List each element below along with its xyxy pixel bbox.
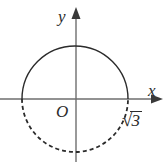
y-axis-arrow-icon bbox=[72, 7, 81, 19]
y-axis-label: y bbox=[58, 8, 66, 25]
upper-semicircle-solid bbox=[22, 46, 128, 99]
x-axis-label: x bbox=[148, 82, 156, 99]
math-figure-coordinate-circle: y x O √3 bbox=[0, 0, 167, 162]
lower-semicircle-dashed bbox=[22, 99, 128, 152]
radical-expression: √3 bbox=[122, 110, 142, 129]
x-intercept-label: √3 bbox=[122, 110, 142, 129]
figure-canvas bbox=[0, 0, 167, 162]
radicand-value: 3 bbox=[130, 111, 142, 129]
origin-label: O bbox=[56, 103, 68, 120]
